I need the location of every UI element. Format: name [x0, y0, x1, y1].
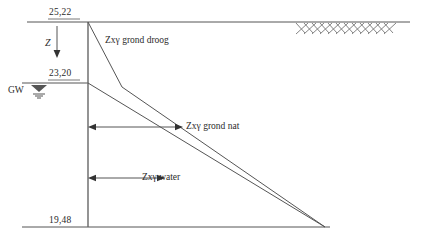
depth-symbol-label: Z — [45, 38, 51, 48]
pressure-label-water: Zxγ water — [142, 173, 180, 183]
elevation-label-top: 25,22 — [49, 8, 71, 18]
groundwater-symbol-icon — [31, 85, 47, 98]
depth-arrow-icon — [54, 26, 61, 58]
dimension-arrow-grond-nat — [88, 124, 183, 130]
pressure-label-grond-droog: Zxγ grond droog — [105, 36, 169, 46]
pressure-water-line — [88, 83, 325, 227]
elevation-label-groundwater: 23,20 — [49, 69, 71, 79]
diagram-canvas: 25,22 23,20 19,48 Z GW Zxγ grond droog Z… — [0, 0, 423, 241]
pressure-label-grond-nat: Zxγ grond nat — [186, 122, 239, 132]
elevation-label-bottom: 19,48 — [49, 216, 71, 226]
ground-hatch-icon — [296, 23, 396, 34]
groundwater-label: GW — [8, 86, 24, 96]
